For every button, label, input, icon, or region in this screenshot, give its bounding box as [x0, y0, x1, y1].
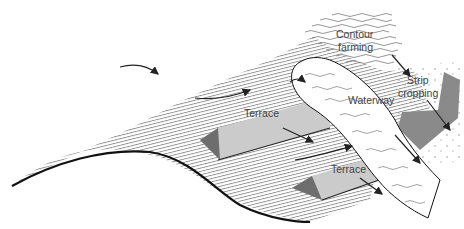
label-terrace-lower: Terrace	[331, 163, 366, 175]
label-waterway: Waterway	[348, 94, 395, 106]
label-contour-farming-2: farming	[338, 41, 373, 53]
label-strip-cropping-2: cropping	[398, 87, 438, 99]
label-strip-cropping-1: Strip	[407, 74, 429, 86]
soil-conservation-diagram: Contour farming Strip cropping Waterway …	[0, 0, 464, 229]
label-contour-farming-1: Contour	[336, 28, 374, 40]
arrow-icon	[120, 65, 158, 74]
label-terrace-upper: Terrace	[244, 107, 279, 119]
